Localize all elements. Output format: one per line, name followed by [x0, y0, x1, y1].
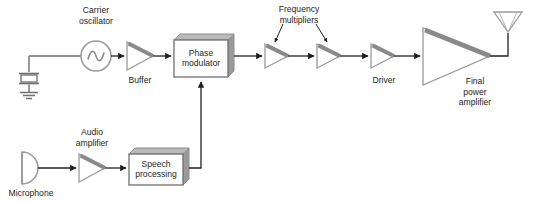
carrier-oscillator-label-line-2: oscillator [79, 16, 113, 26]
driver-label: Driver [373, 75, 396, 85]
audio-amplifier-label-line-2: amplifier [76, 138, 109, 148]
phase-modulator-block: Phase modulator [174, 34, 234, 77]
final-power-amplifier-label-line-3: amplifier [459, 97, 492, 107]
frequency-multipliers-label-line-2: multipliers [280, 15, 319, 25]
buffer-label: Buffer [129, 75, 152, 85]
driver-amplifier [371, 44, 394, 68]
speech-processing-block: Speech processing [129, 148, 189, 185]
wire-final-amplifier-to-antenna [490, 33, 508, 56]
speech-processing-label-line-2: processing [135, 169, 177, 179]
frequency-multipliers-label-line-1: Frequency [279, 4, 320, 14]
microphone-symbol [22, 152, 38, 184]
final-power-amplifier-label-line-2: power [463, 87, 487, 97]
phase-modulator-label-line-1: Phase [189, 48, 214, 58]
wire-speech-processing-to-phase-modulator [189, 82, 201, 168]
frequency-multiplier-2 [317, 44, 340, 68]
speech-processing-label-line-1: Speech [141, 159, 170, 169]
diagram-canvas: Phase modulator [0, 0, 536, 203]
frequency-multiplier-1 [265, 44, 288, 68]
carrier-oscillator-symbol [81, 41, 111, 71]
leader-line-multiplier-1 [275, 24, 283, 42]
antenna-symbol [494, 12, 522, 32]
buffer-amplifier [127, 42, 153, 70]
final-power-amplifier-label-line-1: Final [466, 76, 485, 86]
audio-amplifier-label-line-1: Audio [81, 127, 103, 137]
fm-transmitter-block-diagram: Phase modulator [0, 0, 536, 203]
ground-symbol [20, 93, 38, 99]
phase-modulator-label-line-2: modulator [182, 58, 220, 68]
audio-amplifier [79, 154, 105, 182]
leader-line-multiplier-2 [316, 24, 327, 42]
microphone-label: Microphone [9, 188, 54, 198]
crystal-symbol [19, 56, 39, 92]
carrier-oscillator-label-line-1: Carrier [83, 5, 109, 15]
